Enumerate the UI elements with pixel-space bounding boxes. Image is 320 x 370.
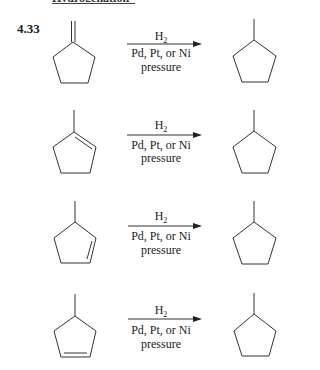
catalyst-label-3: Pd, Pt, or Ni (106, 230, 216, 243)
reagent-label: H2 (106, 210, 216, 227)
catalyst-label-4: Pd, Pt, or Ni (106, 324, 216, 337)
product-4-structure (234, 293, 276, 356)
reaction-conditions-1: H2 (106, 30, 216, 47)
product-2-structure (233, 110, 276, 173)
reaction-conditions-4: H2 (106, 304, 216, 321)
reaction-conditions-2: H2 (106, 119, 216, 136)
reagent-label: H2 (106, 119, 216, 136)
product-3-structure (233, 201, 276, 264)
reactant-1-structure (53, 21, 95, 83)
reactant-4-structure (54, 294, 96, 357)
condition-label-2: pressure (106, 152, 216, 165)
reactant-3-structure (54, 201, 96, 263)
reactant-2-structure (53, 110, 96, 173)
catalyst-label-1: Pd, Pt, or Ni (106, 47, 216, 60)
reagent-label: H2 (106, 304, 216, 321)
condition-label-1: pressure (106, 61, 216, 74)
reagent-label: H2 (106, 30, 216, 47)
condition-label-3: pressure (106, 244, 216, 257)
product-1-structure (233, 19, 276, 82)
condition-label-4: pressure (106, 338, 216, 351)
reaction-conditions-3: H2 (106, 210, 216, 227)
